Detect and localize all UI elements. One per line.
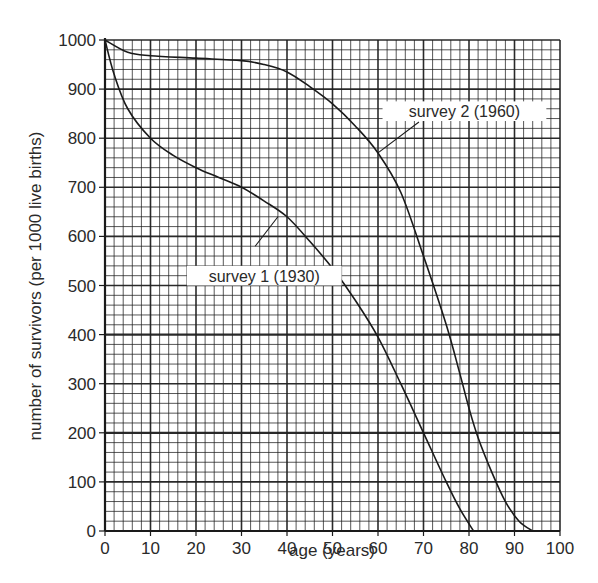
x-tick-label: 30 [232,539,251,558]
y-tick-label: 700 [68,178,96,197]
x-tick-label: 100 [546,539,574,558]
y-tick-label: 400 [68,326,96,345]
y-tick-label: 100 [68,473,96,492]
y-axis-title: number of survivors (per 1000 live birth… [26,132,45,441]
x-axis-title: age (years) [289,541,375,560]
x-tick-label: 80 [460,539,479,558]
x-tick-label: 70 [414,539,433,558]
y-tick-label: 0 [87,522,96,541]
y-tick-label: 1000 [58,31,96,50]
y-tick-label: 600 [68,227,96,246]
x-tick-label: 90 [505,539,524,558]
x-tick-label: 0 [100,539,109,558]
y-tick-label: 200 [68,424,96,443]
x-tick-label: 10 [141,539,160,558]
survival-chart: survey 1 (1930)survey 2 (1960) 010203040… [0,0,598,583]
y-tick-label: 800 [68,129,96,148]
y-tick-label: 500 [68,277,96,296]
y-tick-label: 900 [68,80,96,99]
y-tick-label: 300 [68,375,96,394]
annotation-pointer [255,217,278,246]
annotation-label-survey-1: survey 1 (1930) [209,268,320,285]
x-tick-label: 20 [187,539,206,558]
annotation-label-survey-2: survey 2 (1960) [409,103,520,120]
